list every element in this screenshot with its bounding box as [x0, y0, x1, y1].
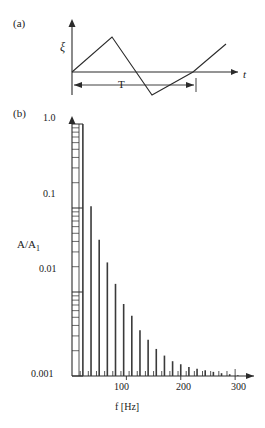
panel-b-axis-arrowhead [69, 116, 76, 124]
y-tick-label-0.001: 0.001 [31, 368, 54, 379]
frequency-axis-arrowhead [246, 373, 254, 379]
x-tick-label-100: 100 [114, 381, 129, 392]
amplitude-axis-arrowhead [69, 19, 76, 27]
x-axis-ticks [80, 369, 235, 380]
y-tick-label-1: 1.0 [43, 112, 56, 123]
spectrum-line-group [83, 124, 238, 376]
y-axis-log-ticks [72, 124, 83, 376]
panel-b-label: (b) [13, 107, 26, 119]
panel-a-label: (a) [13, 17, 25, 29]
t-axis-label: t [243, 68, 246, 80]
figure-canvas [0, 0, 265, 428]
x-tick-label-300: 300 [231, 381, 246, 392]
y-tick-label-0.01: 0.01 [39, 263, 57, 274]
panel-b-spectrum [69, 116, 255, 380]
y-axis-title-subscript: 1 [36, 244, 40, 253]
y-tick-label-0.1: 0.1 [43, 188, 56, 199]
panel-a-waveform [69, 19, 239, 95]
xi-axis-label: ξ [60, 40, 65, 55]
period-label: T [118, 78, 125, 90]
triangular-waveform-trace [72, 37, 226, 95]
y-axis-title: A/A1 [17, 238, 40, 253]
x-tick-label-200: 200 [176, 381, 191, 392]
y-axis-title-main: A/A [17, 238, 36, 250]
time-axis-arrowhead [231, 69, 238, 75]
x-axis-title: f [Hz] [115, 401, 139, 412]
